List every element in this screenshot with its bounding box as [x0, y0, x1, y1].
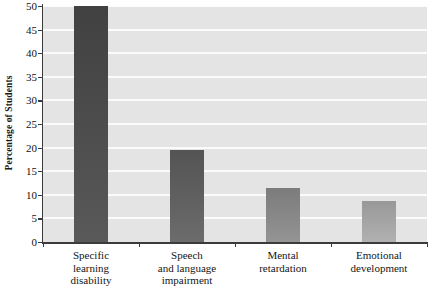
y-axis-tick-mark	[38, 148, 42, 149]
bar	[362, 201, 396, 242]
y-axis-tick-mark	[38, 77, 42, 78]
x-axis-category-label: Mentalretardation	[235, 249, 331, 274]
bar-chart: Percentage of Students 05101520253035404…	[0, 0, 440, 289]
x-axis-tick-mark	[427, 243, 428, 247]
y-axis-tick-mark	[38, 6, 42, 7]
y-axis-tick-label: 5	[32, 213, 38, 224]
y-axis-tick-mark	[38, 124, 42, 125]
bar-fill	[362, 201, 396, 242]
y-axis-tick-label: 20	[26, 142, 37, 153]
y-axis-tick-mark	[38, 242, 42, 243]
bars-layer	[43, 6, 427, 242]
y-axis-tick-label: 50	[26, 1, 37, 12]
plot-area	[43, 6, 427, 242]
x-axis-category-label-line: Speech	[139, 249, 235, 262]
bar	[170, 150, 204, 242]
y-axis-tick-label: 35	[26, 71, 37, 82]
y-axis-tick-label: 40	[26, 48, 37, 59]
y-axis-tick-label: 45	[26, 24, 37, 35]
y-axis-tick-mark	[38, 53, 42, 54]
x-axis-category-label: Emotionaldevelopment	[331, 249, 427, 274]
x-axis-category-label: Speechand languageimpairment	[139, 249, 235, 287]
x-axis-tick-mark	[139, 243, 140, 247]
y-axis-tick-mark	[38, 218, 42, 219]
y-axis-tick-mark	[38, 30, 42, 31]
y-axis-tick-label: 10	[26, 189, 37, 200]
y-axis-tick-mark	[38, 100, 42, 101]
x-axis-category-label-line: development	[331, 262, 427, 275]
y-axis-title-text: Percentage of Students	[4, 75, 14, 170]
bar-fill	[74, 6, 108, 242]
y-axis-tick-label: 15	[26, 166, 37, 177]
x-axis-category-label-line: disability	[43, 274, 139, 287]
x-axis-category-label: Specificlearningdisability	[43, 249, 139, 287]
x-axis-tick-mark	[331, 243, 332, 247]
bar	[74, 6, 108, 242]
x-axis-category-labels: SpecificlearningdisabilitySpeechand lang…	[43, 249, 427, 289]
y-axis-tick-mark	[38, 171, 42, 172]
x-axis-category-label-line: Specific	[43, 249, 139, 262]
y-axis-tick-label: 0	[32, 237, 38, 248]
y-axis-tick-labels: 05101520253035404550	[18, 0, 40, 245]
bar-fill	[170, 150, 204, 242]
x-axis-tick-mark	[235, 243, 236, 247]
x-axis-category-label-line: and language	[139, 262, 235, 275]
y-axis-tick-label: 30	[26, 95, 37, 106]
bar-fill	[266, 188, 300, 242]
x-axis-category-label-line: retardation	[235, 262, 331, 275]
x-axis-tick-mark	[43, 243, 44, 247]
y-axis-tick-mark	[38, 195, 42, 196]
x-axis-category-label-line: learning	[43, 262, 139, 275]
y-axis-title: Percentage of Students	[0, 0, 18, 245]
x-axis-category-label-line: Mental	[235, 249, 331, 262]
x-axis-category-label-line: impairment	[139, 274, 235, 287]
y-axis-tick-label: 25	[26, 119, 37, 130]
x-axis-category-label-line: Emotional	[331, 249, 427, 262]
bar	[266, 188, 300, 242]
